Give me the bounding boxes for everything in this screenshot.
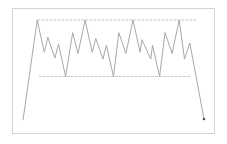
breakdown-end-marker [203, 118, 206, 121]
price-path-line [23, 20, 204, 120]
price-pattern-diagram [0, 0, 227, 144]
